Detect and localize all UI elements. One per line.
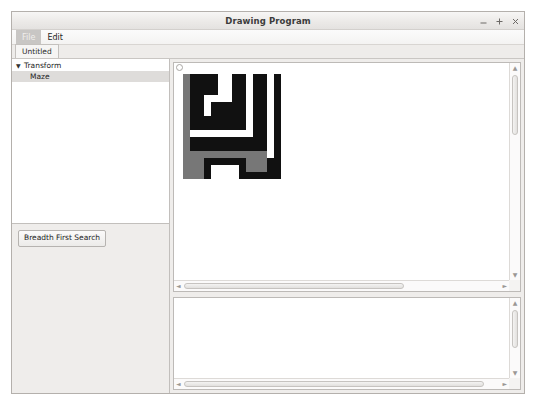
maze-cell <box>211 158 218 165</box>
maze-cell <box>225 116 232 123</box>
maze-cell <box>190 151 197 158</box>
menu-item-edit[interactable]: Edit <box>41 30 69 44</box>
maze-cell <box>211 81 218 88</box>
menu-item-file[interactable]: File <box>16 30 41 44</box>
scroll-right-icon[interactable]: ► <box>502 283 507 289</box>
title-bar: Drawing Program <box>12 12 524 30</box>
canvas-vscroll-thumb[interactable] <box>512 75 518 135</box>
maze-cell <box>253 95 260 102</box>
close-button[interactable] <box>511 17 520 26</box>
maze-cell <box>183 116 190 123</box>
scroll-down-icon[interactable]: ▼ <box>510 370 520 376</box>
scroll-left-icon[interactable]: ◄ <box>176 381 181 387</box>
maze-cell <box>260 165 267 172</box>
maze-cell <box>246 74 253 81</box>
maze-cell <box>183 95 190 102</box>
scroll-up-icon[interactable]: ▲ <box>510 300 520 306</box>
maze-cell <box>204 137 211 144</box>
maze-cell <box>204 158 211 165</box>
maximize-button[interactable] <box>495 17 504 26</box>
console-vscroll-thumb[interactable] <box>512 310 518 348</box>
maze-cell <box>183 158 190 165</box>
maze-cell <box>190 158 197 165</box>
maze-cell <box>225 95 232 102</box>
console-horizontal-scrollbar[interactable]: ◄ ► <box>174 378 509 389</box>
maze-cell <box>260 102 267 109</box>
maze-cell <box>267 158 274 165</box>
maze-cell <box>274 137 281 144</box>
maze-cell <box>183 137 190 144</box>
console-text-area[interactable] <box>174 298 509 378</box>
scroll-left-icon[interactable]: ◄ <box>176 283 181 289</box>
window-controls <box>479 12 520 30</box>
breadth-first-search-button[interactable]: Breadth First Search <box>18 230 106 247</box>
maze-cell <box>211 88 218 95</box>
maze-cell <box>211 172 218 179</box>
maze-cell <box>232 116 239 123</box>
maze-cell <box>197 130 204 137</box>
maze-cell <box>197 88 204 95</box>
maze-cell <box>225 74 232 81</box>
maze-cell <box>267 116 274 123</box>
maze-cell <box>218 123 225 130</box>
maze-cell <box>183 102 190 109</box>
maze-cell <box>218 74 225 81</box>
maze-cell <box>246 123 253 130</box>
maze-cell <box>211 137 218 144</box>
maze-cell <box>183 81 190 88</box>
maze-cell <box>197 102 204 109</box>
maze-cell <box>246 172 253 179</box>
maze-cell <box>211 130 218 137</box>
maze-cell <box>225 172 232 179</box>
canvas-hscroll-row: ◄ ► <box>174 280 520 291</box>
tree-item-maze[interactable]: Maze <box>12 71 169 82</box>
console-hscroll-thumb[interactable] <box>184 381 484 387</box>
canvas-horizontal-scrollbar[interactable]: ◄ ► <box>174 280 509 291</box>
chevron-down-icon[interactable]: ▼ <box>16 60 24 71</box>
maze-cell <box>218 95 225 102</box>
maze-cell <box>190 144 197 151</box>
maze-cell <box>232 123 239 130</box>
tree-item-transform[interactable]: ▼ Transform <box>12 60 169 71</box>
scroll-down-icon[interactable]: ▼ <box>510 272 520 278</box>
maze-cell <box>190 130 197 137</box>
minimize-button[interactable] <box>479 17 488 26</box>
maze-cell <box>225 88 232 95</box>
canvas-viewport[interactable] <box>174 63 509 280</box>
canvas-handle-icon[interactable] <box>176 64 183 71</box>
maze-cell <box>274 165 281 172</box>
maze-cell <box>218 109 225 116</box>
scroll-right-icon[interactable]: ► <box>502 381 507 387</box>
maze-cell <box>260 88 267 95</box>
maze-cell <box>267 74 274 81</box>
maze-cell <box>253 123 260 130</box>
maze-cell <box>253 81 260 88</box>
maze-cell <box>246 151 253 158</box>
canvas-vertical-scrollbar[interactable]: ▲ ▼ <box>509 63 520 280</box>
maze-cell <box>225 123 232 130</box>
maze-cell <box>190 102 197 109</box>
maze-cell <box>267 81 274 88</box>
maze-cell <box>197 165 204 172</box>
console-pane: ▲ ▼ ◄ ► <box>173 297 521 390</box>
maze-cell <box>239 116 246 123</box>
canvas-hscroll-thumb[interactable] <box>184 283 404 289</box>
maze-cell <box>197 109 204 116</box>
maze-cell <box>253 165 260 172</box>
maze-cell <box>183 123 190 130</box>
maze-cell <box>225 137 232 144</box>
console-vertical-scrollbar[interactable]: ▲ ▼ <box>509 298 520 378</box>
maze-cell <box>232 165 239 172</box>
maze-grid[interactable] <box>183 74 281 179</box>
tab-untitled[interactable]: Untitled <box>15 44 59 58</box>
maze-cell <box>267 102 274 109</box>
maze-cell <box>204 116 211 123</box>
scroll-up-icon[interactable]: ▲ <box>510 65 520 71</box>
maze-cell <box>218 81 225 88</box>
maze-cell <box>260 130 267 137</box>
maze-cell <box>211 95 218 102</box>
maze-cell <box>260 109 267 116</box>
maze-cell <box>232 144 239 151</box>
maze-cell <box>253 116 260 123</box>
maze-cell <box>246 165 253 172</box>
